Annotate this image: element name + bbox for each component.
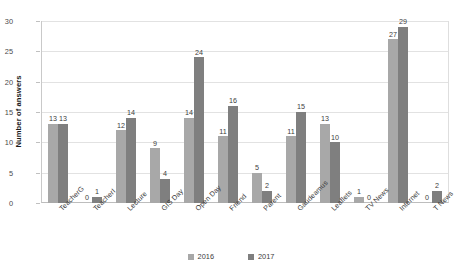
bar[interactable] — [150, 148, 160, 203]
y-tick-label: 30 — [0, 17, 13, 26]
bar-slot: 2 — [432, 21, 442, 203]
bar-group: 1424 — [177, 21, 211, 203]
legend-swatch — [248, 254, 254, 260]
bar-slot: 9 — [150, 21, 160, 203]
bar-value-label: 14 — [127, 109, 135, 116]
bar-value-label: 2 — [265, 182, 269, 189]
bar-slot: 14 — [126, 21, 136, 203]
bar[interactable] — [218, 136, 228, 203]
bar-value-label: 13 — [59, 115, 67, 122]
y-tick-mark — [36, 82, 40, 83]
bar[interactable] — [48, 124, 58, 203]
bar-value-label: 11 — [219, 128, 226, 135]
bar-chart: Number of answers 051015202530 131301121… — [0, 0, 462, 273]
bar-group: 02 — [415, 21, 449, 203]
bar-value-label: 15 — [297, 103, 305, 110]
bar-value-label: 24 — [195, 49, 203, 56]
legend-label: 2016 — [198, 252, 214, 261]
y-tick-mark — [36, 21, 40, 22]
bar-value-label: 10 — [331, 134, 339, 141]
bar-slot: 29 — [398, 21, 408, 203]
chart-legend: 20162017 — [0, 252, 462, 261]
bar-value-label: 4 — [163, 170, 167, 177]
bar-slot: 15 — [296, 21, 306, 203]
x-axis-labels: TeacherGTeacherILectureGIS DayOpen DayFr… — [41, 205, 449, 251]
bar-value-label: 13 — [49, 115, 57, 122]
y-tick-mark — [36, 51, 40, 52]
bar-slot: 1 — [92, 21, 102, 203]
bar-value-label: 9 — [153, 140, 157, 147]
bar-value-label: 0 — [85, 194, 89, 201]
y-tick-label: 20 — [0, 78, 13, 87]
bar-slot: 12 — [116, 21, 126, 203]
bar-slot: 24 — [194, 21, 204, 203]
y-tick-mark — [36, 142, 40, 143]
y-tick-label: 10 — [0, 138, 13, 147]
bar-group: 2729 — [381, 21, 415, 203]
bar-group: 94 — [143, 21, 177, 203]
bar-value-label: 29 — [399, 18, 407, 25]
bar-slot: 11 — [218, 21, 228, 203]
bar-slot: 1 — [354, 21, 364, 203]
y-tick-label: 0 — [0, 199, 13, 208]
bar[interactable] — [398, 27, 408, 203]
bar-group: 52 — [245, 21, 279, 203]
bar-value-label: 2 — [435, 182, 439, 189]
bar-slot: 10 — [330, 21, 340, 203]
bar-slot: 2 — [262, 21, 272, 203]
bar-value-label: 16 — [229, 97, 237, 104]
bar-value-label: 5 — [255, 164, 259, 171]
y-tick-label: 5 — [0, 169, 13, 178]
bar-series-container: 13130112149414241116521115131010272902 — [41, 21, 449, 203]
y-tick-label: 15 — [0, 108, 13, 117]
bar-slot: 13 — [58, 21, 68, 203]
bar-value-label: 13 — [321, 115, 329, 122]
bar-value-label: 0 — [425, 194, 429, 201]
bar-value-label: 1 — [95, 188, 99, 195]
bar-slot: 13 — [320, 21, 330, 203]
legend-label: 2017 — [258, 252, 274, 261]
bar-group: 1214 — [109, 21, 143, 203]
bar-group: 1313 — [41, 21, 75, 203]
bar[interactable] — [194, 57, 204, 203]
bar-slot: 5 — [252, 21, 262, 203]
bar[interactable] — [126, 118, 136, 203]
bar-slot: 0 — [364, 21, 374, 203]
y-tick-label: 25 — [0, 47, 13, 56]
bar[interactable] — [296, 112, 306, 203]
bar-slot: 14 — [184, 21, 194, 203]
bar-slot: 16 — [228, 21, 238, 203]
bar[interactable] — [286, 136, 296, 203]
bar-group: 1310 — [313, 21, 347, 203]
bar-group: 1115 — [279, 21, 313, 203]
bar-value-label: 27 — [389, 31, 397, 38]
y-tick-mark — [36, 112, 40, 113]
bar-value-label: 12 — [117, 122, 125, 129]
bar[interactable] — [252, 173, 262, 203]
bar-value-label: 1 — [357, 188, 361, 195]
plot-area: 13130112149414241116521115131010272902 — [41, 21, 449, 203]
y-tick-mark — [36, 203, 40, 204]
bar-slot: 4 — [160, 21, 170, 203]
bar-slot: 27 — [388, 21, 398, 203]
bar-slot: 13 — [48, 21, 58, 203]
bar-slot: 0 — [422, 21, 432, 203]
bar-group: 01 — [75, 21, 109, 203]
bar-group: 1116 — [211, 21, 245, 203]
legend-item[interactable]: 2016 — [188, 252, 214, 261]
bar[interactable] — [58, 124, 68, 203]
y-tick-mark — [36, 173, 40, 174]
bar[interactable] — [388, 39, 398, 203]
bar[interactable] — [184, 118, 194, 203]
y-axis-title: Number of answers — [14, 52, 23, 172]
bar[interactable] — [354, 197, 364, 203]
legend-item[interactable]: 2017 — [248, 252, 274, 261]
bar-value-label: 14 — [185, 109, 193, 116]
bar-slot: 11 — [286, 21, 296, 203]
bar[interactable] — [330, 142, 340, 203]
bar-group: 10 — [347, 21, 381, 203]
bar[interactable] — [228, 106, 238, 203]
bar-value-label: 11 — [287, 128, 294, 135]
legend-swatch — [188, 254, 194, 260]
bar-slot: 0 — [82, 21, 92, 203]
